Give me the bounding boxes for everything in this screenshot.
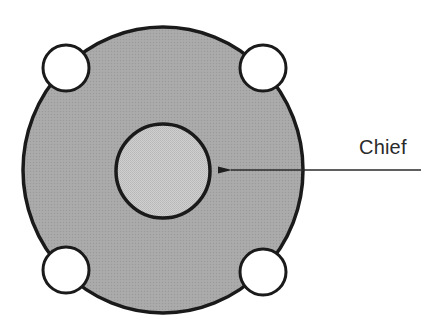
chief-label: Chief [359,136,407,159]
chief-diagram [0,0,448,335]
chief-disc [116,124,210,218]
corner-circle-top-right [240,45,286,91]
corner-circle-bottom-right [240,249,286,295]
corner-circle-bottom-left [43,247,89,293]
corner-circle-top-left [43,45,89,91]
